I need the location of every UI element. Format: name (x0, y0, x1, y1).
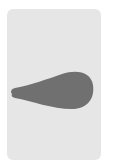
teardrop-shape (7, 9, 101, 160)
image-card (7, 9, 101, 160)
